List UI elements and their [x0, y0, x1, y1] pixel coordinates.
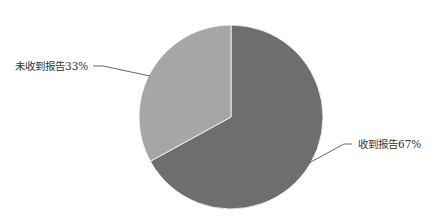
label-received: 收到报告67%: [358, 138, 421, 150]
label-not-received: 未收到报告33%: [15, 60, 88, 72]
pie-slices: [139, 25, 323, 209]
pie-chart: 未收到报告33% 收到报告67%: [0, 0, 435, 224]
leader-line-not-received: [93, 66, 150, 76]
